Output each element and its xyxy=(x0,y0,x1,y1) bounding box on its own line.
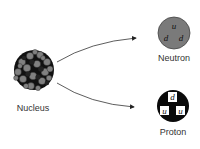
svg-text:u: u xyxy=(172,21,177,31)
svg-text:d: d xyxy=(164,33,169,43)
svg-text:d: d xyxy=(179,33,184,43)
nucleus-icon xyxy=(14,49,54,90)
proton-label: Proton xyxy=(148,127,198,137)
neutron-icon: u d d xyxy=(158,17,190,49)
neutron-label: Neutron xyxy=(148,53,200,63)
proton-icon: d u u xyxy=(157,90,189,122)
arrow-to-proton xyxy=(57,83,134,107)
svg-text:d: d xyxy=(170,92,175,102)
nucleus-label: Nucleus xyxy=(8,103,58,113)
svg-text:u: u xyxy=(178,106,183,116)
svg-text:u: u xyxy=(162,106,167,116)
arrow-to-neutron xyxy=(57,38,136,62)
